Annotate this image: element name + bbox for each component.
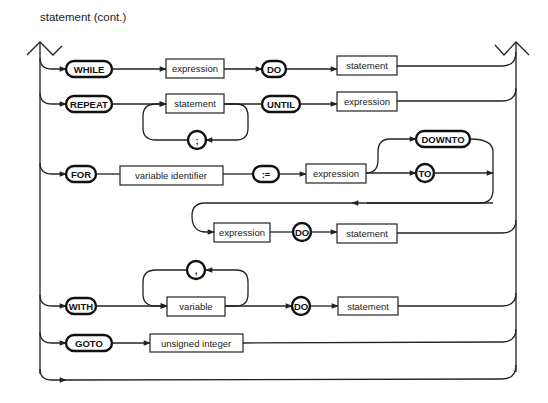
keyword-downto-label: DOWNTO: [421, 134, 464, 145]
box-expression-label: expression: [172, 63, 218, 74]
keyword-do-label: DO: [295, 227, 309, 238]
with-row: WITH variable , DO statement: [40, 261, 516, 316]
goto-row: GOTO unsigned integer: [40, 329, 516, 352]
box-expression-label: expression: [344, 96, 390, 107]
syntax-diagram: WHILE expression DO statement REPEAT sta…: [0, 0, 548, 403]
for-row: FOR variable identifier := expression DO…: [40, 131, 516, 243]
box-statement-label: statement: [346, 60, 388, 71]
while-row: WHILE expression DO statement: [40, 52, 516, 78]
box-expression-label: expression: [313, 168, 359, 179]
box-statement-label: statement: [174, 98, 216, 109]
keyword-do-label: DO: [267, 64, 281, 75]
operator-assign-label: :=: [262, 169, 271, 180]
keyword-while-label: WHILE: [74, 64, 105, 75]
box-variable-label: variable: [179, 301, 212, 312]
box-statement-label: statement: [346, 228, 388, 239]
exit-chevron-icon: [495, 42, 529, 55]
box-expression-label: expression: [219, 227, 265, 238]
empty-row: [40, 365, 516, 380]
separator-comma-label: ,: [195, 265, 198, 276]
keyword-for-label: FOR: [71, 169, 91, 180]
keyword-to-label: TO: [418, 168, 431, 179]
box-unsigned-integer-label: unsigned integer: [161, 338, 231, 349]
keyword-with-label: WITH: [69, 301, 93, 312]
keyword-do-label: DO: [294, 301, 308, 312]
separator-semicolon-label: ;: [195, 135, 198, 146]
box-statement-label: statement: [347, 301, 389, 312]
entry-chevron-icon: [27, 42, 62, 55]
keyword-until-label: UNTIL: [267, 99, 295, 110]
keyword-goto-label: GOTO: [75, 338, 103, 349]
keyword-repeat-label: REPEAT: [70, 99, 108, 110]
box-variable-identifier-label: variable identifier: [135, 170, 207, 181]
